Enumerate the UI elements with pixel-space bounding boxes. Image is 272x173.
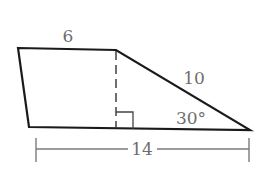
right-angle-marker: [116, 112, 133, 129]
slant-side-label: 10: [183, 68, 205, 88]
base-dimension-label: 14: [131, 139, 153, 159]
top-side-label: 6: [63, 26, 74, 46]
trapezoid-outline: [18, 48, 250, 130]
trapezoid-diagram: 6 10 30° 14: [0, 0, 272, 173]
angle-label: 30°: [176, 108, 206, 128]
